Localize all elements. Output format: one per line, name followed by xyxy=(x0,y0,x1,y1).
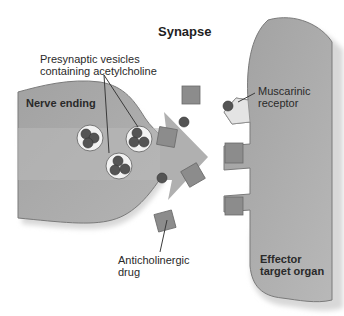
bound-drug-molecule xyxy=(225,197,243,215)
anticholinergic-synapse-diagram: Synapse Presynaptic vesicles containing … xyxy=(0,0,344,316)
effector-organ-label: Effector target organ xyxy=(260,253,324,277)
nerve-ending-label: Nerve ending xyxy=(26,97,96,109)
bound-drug-molecule xyxy=(225,143,243,163)
acetylcholine-molecule xyxy=(157,173,167,183)
anticholinergic-drug-label: Anticholinergic drug xyxy=(118,254,190,278)
acetylcholine-molecule xyxy=(179,117,189,127)
muscarinic-receptor-label: Muscarinic receptor xyxy=(258,85,311,109)
drug-molecule xyxy=(182,86,200,104)
acetylcholine-at-receptor xyxy=(223,101,233,111)
vesicles-label: Presynaptic vesicles containing acetylch… xyxy=(40,53,157,77)
vesicle-2 xyxy=(126,126,152,152)
vesicle-3 xyxy=(106,153,132,179)
vesicle-1 xyxy=(77,125,103,151)
drug-molecule xyxy=(157,127,178,148)
synapse-title: Synapse xyxy=(158,26,211,38)
